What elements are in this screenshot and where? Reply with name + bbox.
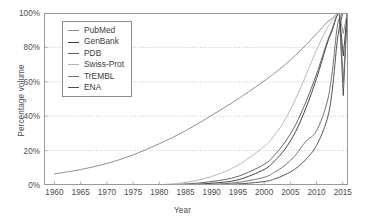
x-tick-label: 2015 — [323, 188, 363, 197]
legend-item-label: PubMed — [84, 25, 115, 36]
legend-swatch-line-icon — [68, 53, 79, 54]
legend-item[interactable]: PubMed — [68, 25, 124, 36]
legend-item[interactable]: Swiss-Prot — [68, 59, 124, 70]
y-tick-label: 80% — [2, 43, 40, 52]
y-tick-label: 100% — [2, 9, 40, 18]
chart-legend: PubMedGenBankPDBSwiss-ProtTrEMBLENA — [62, 21, 132, 97]
legend-item[interactable]: ENA — [68, 82, 124, 93]
chart-figure: Percentage volume Year 0%20%40%60%80%100… — [0, 0, 365, 224]
x-axis-title: Year — [0, 206, 365, 215]
y-tick-label: 20% — [2, 146, 40, 155]
legend-item[interactable]: PDB — [68, 48, 124, 59]
legend-swatch-line-icon — [68, 30, 79, 31]
legend-item-label: TrEMBL — [84, 71, 114, 82]
x-axis-tick-labels: 1960196519701975198019851990199520002005… — [44, 188, 348, 202]
legend-item[interactable]: TrEMBL — [68, 71, 124, 82]
legend-item-label: ENA — [84, 82, 101, 93]
legend-item-label: PDB — [84, 48, 101, 59]
y-axis-tick-labels: 0%20%40%60%80%100% — [0, 13, 40, 185]
legend-swatch-line-icon — [68, 64, 79, 65]
y-tick-label: 40% — [2, 112, 40, 121]
y-tick-label: 60% — [2, 77, 40, 86]
legend-swatch-line-icon — [68, 42, 79, 43]
legend-swatch-line-icon — [68, 76, 79, 77]
legend-swatch-line-icon — [68, 87, 79, 88]
legend-item-label: Swiss-Prot — [84, 59, 124, 70]
legend-item-label: GenBank — [84, 36, 119, 47]
legend-item[interactable]: GenBank — [68, 36, 124, 47]
